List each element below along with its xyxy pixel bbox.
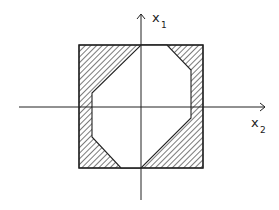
diagram-canvas: x 1 x 2 bbox=[0, 0, 279, 210]
x2-label: x bbox=[251, 115, 259, 130]
x1-label: x bbox=[152, 10, 160, 25]
x1-subscript: 1 bbox=[161, 20, 167, 30]
x2-subscript: 2 bbox=[260, 125, 266, 135]
